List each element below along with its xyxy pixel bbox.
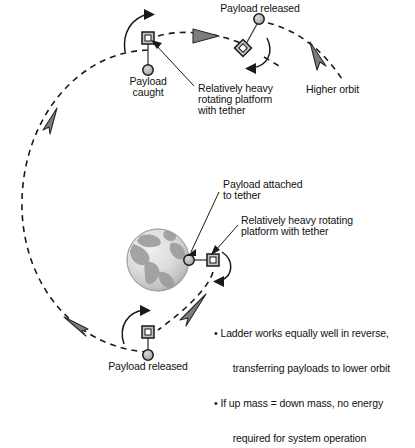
note-item-2-line-1: • If up mass = down mass, no energy — [214, 398, 414, 410]
earth-globe — [127, 229, 189, 291]
payload-attached-mid-node — [184, 255, 194, 265]
platform-mid-node — [207, 254, 219, 266]
tether-rod-top-right — [246, 24, 257, 44]
leader-line-heavy-platform-mid — [211, 225, 238, 255]
rotation-arrow-platform-top-left — [124, 9, 155, 52]
label-heavy-platform-top-line3: with tether — [198, 105, 245, 117]
label-payload-caught-line2: caught — [112, 87, 184, 99]
platform-top-left-node — [142, 32, 154, 44]
orbit-direction-arrow-lower-left — [64, 317, 88, 336]
label-heavy-platform-mid-line2: platform with tether — [241, 226, 328, 238]
transfer-direction-arrow-top — [193, 29, 219, 43]
higher-orbit-path — [268, 23, 344, 82]
note-item-2-line-2: required for system operation — [214, 433, 414, 445]
payload-released-top-node — [254, 14, 264, 24]
payload-caught-node — [143, 65, 153, 75]
higher-orbit-direction-arrow — [310, 42, 326, 70]
label-higher-orbit: Higher orbit — [306, 84, 359, 96]
note-item-1-line-1: • Ladder works equally well in reverse, — [214, 328, 414, 340]
platform-bottom-node — [142, 326, 154, 338]
rotation-arrow-platform-top-right — [245, 38, 270, 74]
orbit-direction-arrow-upper-left — [43, 108, 57, 134]
label-payload-attached-line2: to tether — [223, 190, 261, 202]
label-payload-released-top: Payload released — [200, 3, 320, 15]
payload-released-bottom-node — [143, 350, 153, 360]
leader-line-payload-attached — [186, 192, 219, 256]
notes-list: • Ladder works equally well in reverse, … — [214, 305, 414, 448]
cutoff-caption-text — [3, 363, 303, 373]
